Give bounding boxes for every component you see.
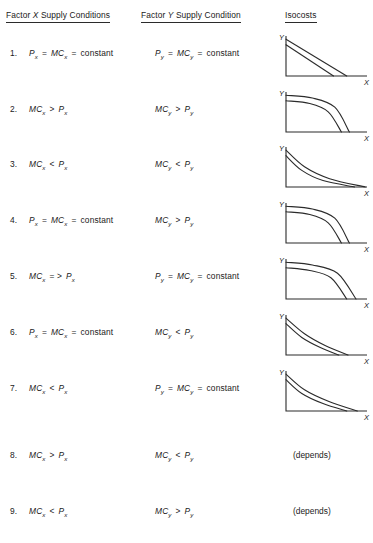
row-number: 9. xyxy=(10,506,17,516)
row-condition-x: MCx < Px xyxy=(29,159,67,171)
isocost-diagram: YX xyxy=(276,30,373,86)
isocost-diagram: YX xyxy=(276,309,373,365)
svg-text:Y: Y xyxy=(279,368,285,377)
isocost-diagram: YX xyxy=(276,253,373,309)
row-condition-y: MCy > Py xyxy=(155,104,193,116)
row-condition-y: MCy < Py xyxy=(155,159,193,171)
row-number: 4. xyxy=(10,215,17,225)
svg-text:X: X xyxy=(363,189,370,197)
svg-text:X: X xyxy=(363,301,370,309)
row-condition-x: MCx < Px xyxy=(29,383,67,395)
column-header-isocosts: Isocosts xyxy=(285,10,317,23)
svg-text:X: X xyxy=(363,245,370,253)
svg-text:Y: Y xyxy=(279,256,285,265)
svg-text:X: X xyxy=(363,413,370,421)
row-isocost-note: (depends) xyxy=(293,506,331,516)
table-row: 5.MCx = > PxPy = MCy = constantYX xyxy=(0,253,373,309)
row-number: 7. xyxy=(10,383,17,393)
table-row: 2.MCx > PxMCy > PyYX xyxy=(0,86,373,142)
column-header-factor-y-suffix: Supply Condition xyxy=(173,10,240,20)
svg-text:Y: Y xyxy=(279,144,285,153)
column-header-factor-x-prefix: Factor xyxy=(6,10,33,20)
table-row: 7.MCx < PxPy = MCy = constantYX xyxy=(0,365,373,421)
row-condition-y: MCy < Py xyxy=(155,327,193,339)
svg-text:Y: Y xyxy=(279,200,285,209)
table-row: 8.MCx > PxMCy < Py(depends) xyxy=(0,432,373,488)
svg-text:Y: Y xyxy=(279,312,285,321)
row-condition-y: Py = MCy = constant xyxy=(155,48,239,60)
svg-text:X: X xyxy=(363,357,370,365)
row-number: 5. xyxy=(10,271,17,281)
svg-text:X: X xyxy=(363,78,370,86)
row-condition-x: Px = MCx = constant xyxy=(29,327,113,339)
row-number: 6. xyxy=(10,327,17,337)
row-condition-y: Py = MCy = constant xyxy=(155,383,239,395)
column-header-factor-y-prefix: Factor xyxy=(141,10,168,20)
table-header: Factor X Supply Conditions Factor Y Supp… xyxy=(0,10,373,28)
row-condition-y: Py = MCy = constant xyxy=(155,271,239,283)
row-condition-y: MCy > Py xyxy=(155,506,193,518)
row-condition-y: MCy < Py xyxy=(155,450,193,462)
isocost-diagram: YX xyxy=(276,86,373,142)
column-header-factor-x-suffix: Supply Conditions xyxy=(38,10,110,20)
column-header-factor-y: Factor Y Supply Condition xyxy=(141,10,241,23)
svg-text:Y: Y xyxy=(279,33,285,42)
table-row: 3.MCx < PxMCy < PyYX xyxy=(0,141,373,197)
row-number: 2. xyxy=(10,104,17,114)
isocost-diagram: YX xyxy=(276,141,373,197)
table-row: 9.MCx < PxMCy > Py(depends) xyxy=(0,488,373,543)
table-row: 4.Px = MCx = constantMCy > PyYX xyxy=(0,197,373,253)
isocost-table: Factor X Supply Conditions Factor Y Supp… xyxy=(0,0,373,543)
row-condition-x: MCx > Px xyxy=(29,450,67,462)
svg-text:Y: Y xyxy=(279,89,285,98)
row-condition-x: MCx = > Px xyxy=(29,271,75,283)
row-condition-x: Px = MCx = constant xyxy=(29,48,113,60)
row-isocost-note: (depends) xyxy=(293,450,331,460)
isocost-diagram: YX xyxy=(276,365,373,421)
row-condition-x: MCx > Px xyxy=(29,104,67,116)
column-header-factor-x: Factor X Supply Conditions xyxy=(6,10,110,23)
row-condition-x: MCx < Px xyxy=(29,506,67,518)
isocost-diagram: YX xyxy=(276,197,373,253)
row-number: 1. xyxy=(10,48,17,58)
table-row: 6.Px = MCx = constantMCy < PyYX xyxy=(0,309,373,365)
row-number: 8. xyxy=(10,450,17,460)
row-condition-x: Px = MCx = constant xyxy=(29,215,113,227)
table-row: 1.Px = MCx = constantPy = MCy = constant… xyxy=(0,30,373,86)
row-condition-y: MCy > Py xyxy=(155,215,193,227)
row-number: 3. xyxy=(10,159,17,169)
